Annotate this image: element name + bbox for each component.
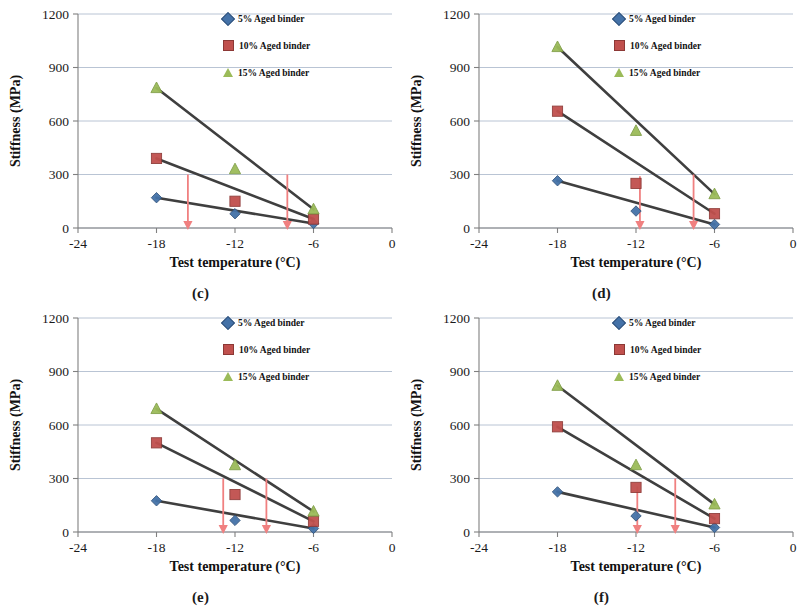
y-tick-label: 0 (62, 221, 69, 236)
panel-caption-d: (d) (401, 285, 802, 302)
data-point-square (552, 106, 562, 116)
data-point-triangle (308, 505, 319, 516)
y-tick-label: 1200 (443, 7, 470, 22)
legend-c: 5% Aged binder10% Aged binder15% Aged bi… (222, 5, 310, 86)
y-tick-label: 300 (49, 167, 70, 182)
y-tick-label: 900 (450, 364, 471, 379)
chart-panel-d: 03006009001200-24-18-12-60Test temperatu… (401, 0, 802, 304)
y-axis-title: Stiffness (MPa) (409, 379, 425, 471)
annotation-arrow-head (671, 525, 680, 534)
y-tick-label: 300 (450, 167, 471, 182)
chart-panel-f: 03006009001200-24-18-12-60Test temperatu… (401, 304, 802, 608)
y-tick-label: 900 (49, 60, 70, 75)
trendline (157, 443, 314, 521)
diamond-marker-icon (612, 11, 626, 25)
y-tick-label: 600 (49, 114, 70, 129)
x-tick-label: -18 (148, 540, 166, 555)
legend-label: 15% Aged binder (629, 68, 700, 78)
legend-label: 10% Aged binder (239, 345, 310, 355)
y-tick-label: 600 (450, 418, 471, 433)
data-point-diamond (552, 487, 562, 497)
x-tick-label: -12 (226, 236, 244, 251)
y-tick-label: 600 (49, 418, 70, 433)
y-axis-title: Stiffness (MPa) (8, 379, 24, 471)
plot-area-d: 03006009001200-24-18-12-60Test temperatu… (401, 0, 802, 304)
legend-d: 5% Aged binder10% Aged binder15% Aged bi… (613, 5, 701, 86)
y-tick-label: 900 (450, 60, 471, 75)
data-point-square (552, 422, 562, 432)
legend-item[interactable]: 15% Aged binder (613, 59, 701, 86)
legend-item[interactable]: 10% Aged binder (613, 336, 701, 363)
annotation-arrow-head (689, 221, 698, 230)
legend-label: 10% Aged binder (630, 41, 701, 51)
legend-label: 5% Aged binder (238, 14, 305, 24)
legend-label: 5% Aged binder (629, 318, 696, 328)
data-point-triangle (552, 380, 563, 391)
chart-svg: 03006009001200-24-18-12-60Test temperatu… (0, 0, 401, 280)
data-point-square (230, 489, 240, 499)
annotation-arrow-head (633, 525, 642, 534)
legend-label: 5% Aged binder (238, 318, 305, 328)
data-point-triangle (151, 82, 162, 93)
annotation-arrow-head (183, 221, 192, 230)
legend-item[interactable]: 5% Aged binder (222, 5, 310, 32)
legend-item[interactable]: 10% Aged binder (222, 32, 310, 59)
data-point-square (308, 516, 318, 526)
legend-item[interactable]: 15% Aged binder (613, 363, 701, 390)
y-tick-label: 0 (62, 525, 69, 540)
annotation-arrow-head (283, 221, 292, 230)
data-point-square (631, 482, 641, 492)
triangle-marker-icon (223, 68, 233, 77)
annotation-arrow-head (219, 525, 228, 534)
data-point-diamond (631, 511, 641, 521)
legend-label: 15% Aged binder (238, 372, 309, 382)
triangle-marker-icon (223, 372, 233, 381)
y-tick-label: 1200 (42, 311, 69, 326)
diamond-marker-icon (221, 11, 235, 25)
triangle-marker-icon (614, 68, 624, 77)
x-axis-title: Test temperature (°C) (170, 255, 301, 271)
legend-item[interactable]: 5% Aged binder (222, 309, 310, 336)
legend-label: 15% Aged binder (629, 372, 700, 382)
plot-area-c: 03006009001200-24-18-12-60Test temperatu… (0, 0, 401, 304)
legend-item[interactable]: 5% Aged binder (613, 309, 701, 336)
legend-label: 15% Aged binder (238, 68, 309, 78)
x-tick-label: -18 (549, 236, 567, 251)
chart-svg: 03006009001200-24-18-12-60Test temperatu… (0, 304, 401, 584)
legend-item[interactable]: 15% Aged binder (222, 363, 310, 390)
legend-item[interactable]: 10% Aged binder (222, 336, 310, 363)
y-tick-label: 600 (450, 114, 471, 129)
data-point-triangle (552, 41, 563, 52)
chart-panel-c: 03006009001200-24-18-12-60Test temperatu… (0, 0, 401, 304)
legend-item[interactable]: 10% Aged binder (613, 32, 701, 59)
panel-caption-c: (c) (0, 285, 401, 302)
chart-panel-e: 03006009001200-24-18-12-60Test temperatu… (0, 304, 401, 608)
data-point-triangle (151, 403, 162, 414)
panel-caption-f: (f) (401, 589, 802, 606)
y-tick-label: 0 (463, 221, 470, 236)
x-tick-label: -18 (148, 236, 166, 251)
x-tick-label: -24 (470, 540, 488, 555)
data-point-triangle (229, 459, 240, 470)
y-axis-title: Stiffness (MPa) (409, 75, 425, 167)
annotation-arrow-head (635, 221, 644, 230)
figure-panel-grid: 03006009001200-24-18-12-60Test temperatu… (0, 0, 802, 608)
triangle-marker-icon (614, 372, 624, 381)
data-point-square (151, 438, 161, 448)
x-tick-label: 0 (790, 236, 797, 251)
legend-item[interactable]: 5% Aged binder (613, 5, 701, 32)
square-marker-icon (614, 40, 625, 51)
legend-e: 5% Aged binder10% Aged binder15% Aged bi… (222, 309, 310, 390)
y-axis-title: Stiffness (MPa) (8, 75, 24, 167)
legend-label: 10% Aged binder (239, 41, 310, 51)
data-point-square (151, 153, 161, 163)
x-tick-label: -6 (709, 540, 720, 555)
plot-area-e: 03006009001200-24-18-12-60Test temperatu… (0, 304, 401, 608)
legend-item[interactable]: 15% Aged binder (222, 59, 310, 86)
x-tick-label: -12 (627, 540, 645, 555)
panel-caption-e: (e) (0, 589, 401, 606)
y-tick-label: 1200 (42, 7, 69, 22)
diamond-marker-icon (612, 315, 626, 329)
square-marker-icon (223, 40, 234, 51)
data-point-triangle (630, 125, 641, 136)
